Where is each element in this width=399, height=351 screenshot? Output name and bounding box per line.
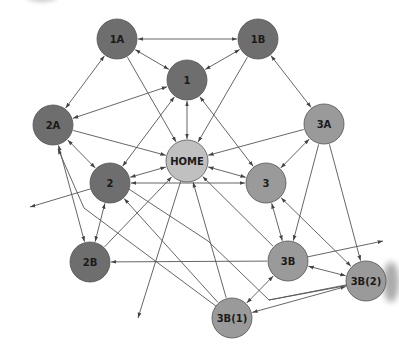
edge-home-offpage-bottom <box>138 161 187 318</box>
node-label: HOME <box>170 156 204 167</box>
edge-2a-home <box>73 130 165 155</box>
edge-1a-2a <box>66 56 105 108</box>
edge-3a-3b <box>293 144 318 240</box>
node-label: 3B <box>281 256 296 267</box>
node-1a: 1A <box>97 19 137 59</box>
node-1b: 1B <box>238 19 278 59</box>
node-label: 3B(2) <box>351 276 382 287</box>
edge-1b-1 <box>205 50 240 70</box>
edge-1b-3a <box>271 56 311 108</box>
edge-1a-home <box>127 57 176 142</box>
node-3a: 3A <box>304 104 344 144</box>
node-3: 3 <box>246 163 286 203</box>
node-label: 3 <box>263 178 270 189</box>
edge-1a-1 <box>135 50 169 70</box>
node-label: 2A <box>46 120 61 131</box>
node-2: 2 <box>90 163 130 203</box>
node-label: 1 <box>184 75 191 86</box>
edge-3a-home <box>208 129 303 155</box>
edge-home-2 <box>130 167 166 177</box>
node-2a: 2A <box>33 105 73 145</box>
edge-3b-2b <box>111 261 267 262</box>
node-label: 1B <box>251 34 266 45</box>
edge-3a-3 <box>281 139 310 168</box>
edge-3b-1-2 <box>124 199 218 303</box>
edge-3b-3b-2 <box>308 266 345 276</box>
node-label: 3B(1) <box>217 313 248 324</box>
node-3b: 3B <box>268 241 308 281</box>
node-3b-2: 3B(2) <box>346 261 386 301</box>
edge-3b-2-3b-1 <box>252 287 346 313</box>
edge-3-3b <box>272 203 283 241</box>
edge-2a-2 <box>68 140 96 168</box>
node-label: 2 <box>107 178 114 189</box>
edge-1b-home <box>198 57 247 142</box>
node-3b-1: 3B(1) <box>212 298 252 338</box>
edge-3a-3b-2 <box>329 144 360 260</box>
node-label: 1A <box>110 34 125 45</box>
edge-3b-3b-1 <box>247 276 274 303</box>
node-2b: 2B <box>70 242 110 282</box>
edge-3b1-to-2a <box>58 149 232 318</box>
polylines-layer <box>30 149 383 318</box>
node-label: 3A <box>317 119 332 130</box>
node-home: HOME <box>166 140 208 182</box>
edge-1-3 <box>200 97 253 167</box>
node-1: 1 <box>167 60 207 100</box>
node-label: 2B <box>83 257 98 268</box>
edge-home-3 <box>208 167 246 177</box>
edge-3b2-seg <box>269 285 350 300</box>
edge-3b2-bend <box>112 178 366 300</box>
